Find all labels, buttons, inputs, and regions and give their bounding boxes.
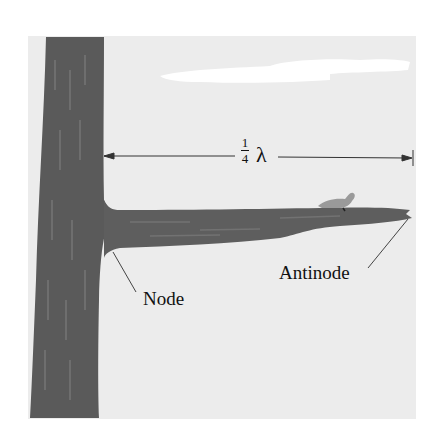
fraction-denominator: 4 (242, 152, 249, 165)
antinode-label: Antinode (279, 263, 350, 282)
lambda-symbol: λ (256, 144, 267, 166)
fraction-numerator: 1 (242, 136, 249, 149)
node-leader-line (113, 252, 136, 292)
tree-illustration (0, 0, 445, 427)
antinode-leader-line (368, 219, 408, 268)
node-label: Node (143, 289, 184, 308)
fraction-one-quarter: 1 4 (241, 136, 249, 165)
cloud-shape (160, 59, 410, 83)
